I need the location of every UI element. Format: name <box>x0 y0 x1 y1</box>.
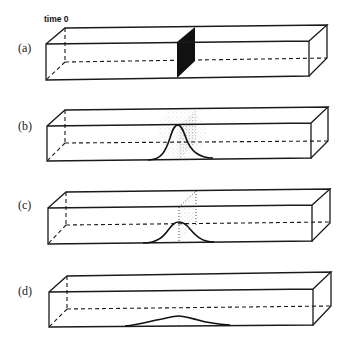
panel-a: (a) <box>18 25 327 80</box>
hidden-edge <box>66 222 330 225</box>
panel-b-label: (b) <box>18 119 32 133</box>
hidden-edge <box>67 306 331 309</box>
time-zero-label: time 0 <box>44 14 69 24</box>
hidden-edge <box>65 58 327 62</box>
panel-c: (c) <box>18 189 330 244</box>
hidden-edge <box>48 225 66 244</box>
diffusion-diagram: time 0 (a) (b) (c) <box>0 0 349 347</box>
panel-d-label: (d) <box>18 284 32 298</box>
panel-a-label: (a) <box>18 41 31 55</box>
concentration-curve <box>125 316 230 326</box>
concentration-curve <box>143 222 214 243</box>
panel-c-label: (c) <box>18 198 31 212</box>
solute-plane <box>177 27 195 78</box>
hidden-edge <box>46 62 65 80</box>
box-outline <box>49 272 331 327</box>
solute-plane-stippled <box>179 191 196 243</box>
panel-d: (d) <box>18 272 331 327</box>
hidden-edge <box>49 309 67 327</box>
panel-b: (b) <box>18 107 328 161</box>
hidden-edge <box>47 143 65 161</box>
